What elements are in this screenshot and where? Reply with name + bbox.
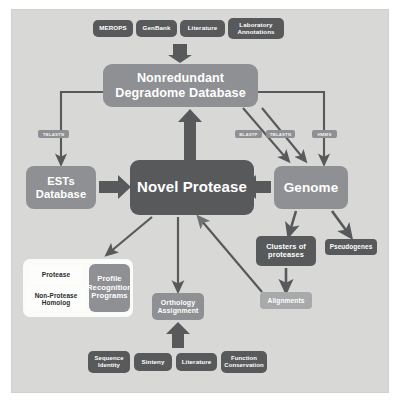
evidence-box-sinteny[interactable]: Sinteny [134,353,172,371]
source-label: Laboratory Annotations [231,22,281,36]
source-box-laboratory-annotations[interactable]: Laboratory Annotations [228,18,284,39]
node-non-protease-homolog[interactable]: Non-Protease Homolog [26,287,86,311]
evidence-box-function-conservation[interactable]: Function Conservation [221,351,267,373]
node-label: Protease [42,271,71,278]
node-protease[interactable]: Protease [30,266,82,284]
evidence-box-literature[interactable]: Literature [176,353,217,371]
node-label: Novel Protease [137,179,247,196]
diagram-canvas: MEROPS GenBank Literature Laboratory Ann… [0,0,400,402]
node-nonredundant-degradome-database[interactable]: Nonredundant Degradome Database [103,64,258,107]
node-genome[interactable]: Genome [274,166,348,209]
node-ests-database[interactable]: ESTs Database [26,166,96,209]
node-label: Nonredundant Degradome Database [106,71,255,99]
node-pseudogenes[interactable]: Pseudogenes [325,239,377,255]
node-alignments[interactable]: Alignments [260,292,312,309]
node-novel-protease[interactable]: Novel Protease [130,160,254,215]
edge-label-tblastn-ests: TBLASTN [38,130,69,138]
node-label: Profile Recognition Programs [87,275,132,301]
edge-label-blastp-genome: BLASTP [235,130,262,138]
evidence-label: Function Conservation [224,355,264,368]
node-orthology-assignment[interactable]: Orthology Assignment [152,293,204,320]
edge-label-tblastn-genome: TBLASTN [266,130,295,138]
evidence-label: Literature [182,359,212,366]
evidence-label: Sequence Identity [91,355,127,368]
source-label: GenBank [143,25,171,32]
source-box-merops[interactable]: MEROPS [93,20,133,37]
node-label: Clusters of proteases [259,243,313,260]
source-label: Literature [188,25,218,32]
node-label: Orthology Assignment [155,299,201,315]
node-label: Non-Protease Homolog [29,292,83,306]
source-box-literature[interactable]: Literature [180,20,225,37]
evidence-box-sequence-identity[interactable]: Sequence Identity [88,351,130,373]
source-box-genbank[interactable]: GenBank [136,20,177,37]
source-label: MEROPS [99,25,126,32]
edge-label-hmms-genome: HMMS [312,130,337,138]
node-label: Pseudogenes [330,243,373,250]
node-label: Alignments [268,297,305,304]
node-label: Genome [284,180,339,195]
node-clusters-of-proteases[interactable]: Clusters of proteases [256,236,316,266]
node-profile-recognition-programs[interactable]: Profile Recognition Programs [89,264,130,312]
node-label: ESTs Database [29,175,93,200]
evidence-label: Sinteny [141,359,164,366]
